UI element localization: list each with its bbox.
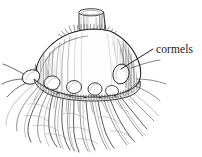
- corm-illustration: [0, 0, 202, 157]
- figure-container: cormels: [0, 0, 202, 157]
- cormel: [67, 81, 82, 94]
- cormel: [88, 83, 102, 95]
